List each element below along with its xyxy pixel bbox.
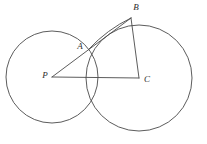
geometry-figure: P A B C [0,0,207,144]
segment-p-c [52,77,139,78]
geometry-canvas: P A B C [0,0,207,144]
label-point-a: A [76,41,83,51]
label-point-b: B [133,2,139,12]
label-point-p: P [41,70,48,80]
segment-p-b [52,18,131,77]
label-point-c: C [144,74,151,84]
segment-b-c [131,18,139,78]
